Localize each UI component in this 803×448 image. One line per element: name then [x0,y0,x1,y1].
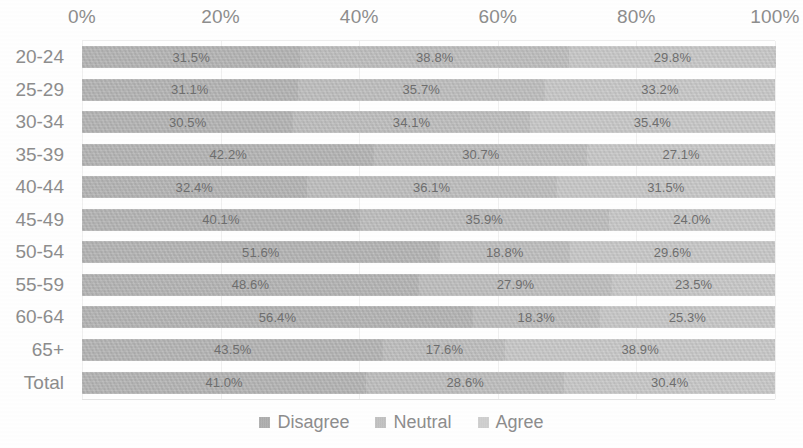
bar-value-label: 31.1% [171,82,208,97]
x-axis-tick-labels: 0%20%40%60%80%100% [0,6,803,32]
bar-segment-disagree: 42.2% [82,144,374,166]
bar-segment-agree: 27.1% [587,144,775,166]
category-label-25-29: 25-29 [0,74,64,107]
bar-row: 55-5948.6%27.9%23.5% [82,269,775,302]
bar-segment-disagree: 56.4% [82,306,473,328]
bar-value-label: 35.7% [403,82,440,97]
stacked-bar: 56.4%18.3%25.3% [82,306,775,328]
bar-segment-neutral: 18.8% [440,241,570,263]
legend-label: Agree [496,412,544,433]
bar-segment-neutral: 35.9% [360,209,609,231]
x-axis-tick-40: 40% [340,6,379,28]
bar-value-label: 41.0% [205,375,242,390]
bar-row: 40-4432.4%36.1%31.5% [82,171,775,204]
chart-legend: DisagreeNeutralAgree [0,412,803,433]
bar-segment-agree: 31.5% [557,176,775,198]
bar-segment-agree: 30.4% [564,372,775,394]
bar-value-label: 32.4% [176,180,213,195]
legend-swatch-agree [478,417,489,428]
bar-value-label: 29.8% [654,50,691,65]
bar-value-label: 40.1% [202,212,239,227]
legend-label: Neutral [393,412,451,433]
stacked-bar: 41.0%28.6%30.4% [82,372,775,394]
bar-segment-disagree: 40.1% [82,209,360,231]
bar-value-label: 27.9% [497,277,534,292]
x-axis-tick-0: 0% [68,6,96,28]
bar-segment-disagree: 30.5% [82,111,293,133]
category-label-55-59: 55-59 [0,269,64,302]
x-axis-tick-20: 20% [201,6,240,28]
bar-row: 45-4940.1%35.9%24.0% [82,204,775,237]
bar-segment-neutral: 27.9% [419,274,612,296]
stacked-bar: 30.5%34.1%35.4% [82,111,775,133]
x-axis-tick-100: 100% [750,6,799,28]
bar-value-label: 42.2% [210,147,247,162]
bar-segment-neutral: 28.6% [366,372,564,394]
bar-value-label: 17.6% [426,342,463,357]
stacked-bar: 42.2%30.7%27.1% [82,144,775,166]
bar-value-label: 30.7% [462,147,499,162]
bar-value-label: 30.5% [169,115,206,130]
bar-segment-agree: 25.3% [600,306,775,328]
bar-value-label: 56.4% [259,310,296,325]
bar-row: 30-3430.5%34.1%35.4% [82,106,775,139]
bar-value-label: 35.9% [466,212,503,227]
bar-value-label: 27.1% [662,147,699,162]
bar-segment-disagree: 43.5% [82,339,383,361]
bar-value-label: 29.6% [654,245,691,260]
category-label-60-64: 60-64 [0,301,64,334]
bar-segment-disagree: 31.1% [82,79,298,101]
bar-value-label: 35.4% [634,115,671,130]
bar-segment-disagree: 31.5% [82,46,300,68]
legend-label: Disagree [277,412,349,433]
x-axis-tick-80: 80% [617,6,656,28]
bar-segment-agree: 38.9% [505,339,775,361]
category-label-35-39: 35-39 [0,139,64,172]
category-label-45-49: 45-49 [0,204,64,237]
bar-value-label: 23.5% [675,277,712,292]
bar-row: 25-2931.1%35.7%33.2% [82,74,775,107]
stacked-bar: 31.1%35.7%33.2% [82,79,775,101]
category-label-65plus: 65+ [0,334,64,367]
legend-swatch-neutral [375,417,386,428]
bar-value-label: 48.6% [232,277,269,292]
legend-swatch-disagree [259,417,270,428]
bar-segment-agree: 33.2% [545,79,775,101]
plot-area: 20-2431.5%38.8%29.8%25-2931.1%35.7%33.2%… [82,40,775,400]
bar-segment-agree: 35.4% [530,111,775,133]
bar-segment-neutral: 30.7% [374,144,587,166]
legend-item-neutral[interactable]: Neutral [375,412,451,433]
bar-value-label: 43.5% [214,342,251,357]
bar-value-label: 25.3% [669,310,706,325]
bar-value-label: 30.4% [651,375,688,390]
bar-value-label: 18.8% [486,245,523,260]
bar-row: 20-2431.5%38.8%29.8% [82,41,775,74]
gridline-100 [775,41,776,399]
bar-value-label: 31.5% [172,50,209,65]
bar-segment-neutral: 34.1% [293,111,529,133]
bar-value-label: 28.6% [447,375,484,390]
stacked-bar: 32.4%36.1%31.5% [82,176,775,198]
bar-segment-neutral: 36.1% [307,176,557,198]
category-label-30-34: 30-34 [0,106,64,139]
bar-row: 50-5451.6%18.8%29.6% [82,236,775,269]
bar-row: 60-6456.4%18.3%25.3% [82,301,775,334]
legend-item-agree[interactable]: Agree [478,412,544,433]
legend-item-disagree[interactable]: Disagree [259,412,349,433]
stacked-bar: 48.6%27.9%23.5% [82,274,775,296]
category-label-Total: Total [0,367,64,400]
bar-value-label: 36.1% [413,180,450,195]
category-label-20-24: 20-24 [0,41,64,74]
bar-value-label: 33.2% [641,82,678,97]
bar-segment-disagree: 48.6% [82,274,419,296]
bar-segment-agree: 24.0% [609,209,775,231]
bar-segment-neutral: 17.6% [383,339,505,361]
bar-row: 35-3942.2%30.7%27.1% [82,139,775,172]
category-label-50-54: 50-54 [0,236,64,269]
bar-segment-disagree: 41.0% [82,372,366,394]
bar-value-label: 34.1% [393,115,430,130]
bar-segment-agree: 29.8% [569,46,776,68]
bar-value-label: 18.3% [518,310,555,325]
stacked-bar: 31.5%38.8%29.8% [82,46,775,68]
stacked-bar: 51.6%18.8%29.6% [82,241,775,263]
